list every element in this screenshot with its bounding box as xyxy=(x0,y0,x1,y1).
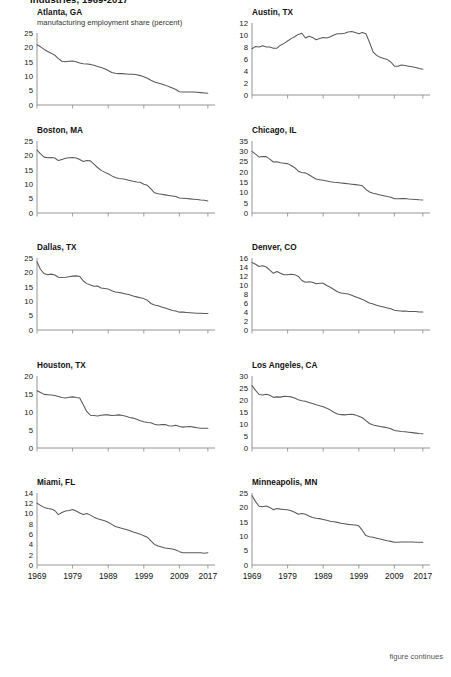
x-tick-label: 2017 xyxy=(414,571,433,581)
series-line xyxy=(252,263,423,313)
chart-title: Los Angeles, CA xyxy=(252,361,431,370)
chart-title: Miami, FL xyxy=(37,478,215,487)
y-tick-label: 10 xyxy=(24,509,33,518)
chart-title: Minneapolis, MN xyxy=(252,478,431,487)
panel-grid: Atlanta, GAmanufacturing employment shar… xyxy=(0,8,451,618)
y-tick-label: 12 xyxy=(239,272,248,281)
figure-title: industries, 1969-2017 xyxy=(30,0,128,5)
y-tick-label: 6 xyxy=(244,299,248,308)
y-tick-label: 8 xyxy=(244,43,248,52)
y-tick-label: 10 xyxy=(239,419,248,428)
series-line xyxy=(252,151,423,200)
y-tick-label: 0 xyxy=(29,326,34,335)
y-tick-label: 15 xyxy=(24,58,33,67)
y-tick-label: 30 xyxy=(239,147,248,156)
x-tick-label: 2009 xyxy=(170,571,189,581)
y-tick-label: 0 xyxy=(29,101,34,110)
chart-panel: Dallas, TX0510152025 xyxy=(0,243,215,361)
y-tick-label: 15 xyxy=(24,283,33,292)
y-tick-label: 20 xyxy=(239,503,248,512)
x-tick-label: 1969 xyxy=(28,571,47,581)
chart-panel: Chicago, IL05101520253035 xyxy=(215,126,431,244)
chart-title: Dallas, TX xyxy=(37,243,215,252)
series-line xyxy=(252,385,423,433)
chart-subtitle: manufacturing employment share (percent) xyxy=(37,18,215,27)
y-tick-label: 0 xyxy=(29,208,34,217)
chart-panel: Los Angeles, CA051015202530 xyxy=(215,361,431,479)
y-tick-label: 10 xyxy=(239,281,248,290)
chart-plot-area: 02468101214196919791989199920092017 xyxy=(0,490,215,596)
chart-plot-area: 0246810121416 xyxy=(215,255,430,347)
y-tick-label: 25 xyxy=(24,136,33,145)
chart-title: Austin, TX xyxy=(252,8,431,17)
series-line xyxy=(37,150,208,201)
y-tick-label: 5 xyxy=(244,198,249,207)
y-tick-label: 10 xyxy=(239,188,248,197)
series-line xyxy=(37,503,208,553)
y-tick-label: 2 xyxy=(244,317,248,326)
y-tick-label: 5 xyxy=(244,431,249,440)
y-tick-label: 35 xyxy=(239,136,248,145)
y-tick-label: 2 xyxy=(29,551,33,560)
y-tick-label: 5 xyxy=(244,546,249,555)
y-tick-label: 20 xyxy=(24,268,33,277)
x-tick-label: 1979 xyxy=(278,571,297,581)
chart-plot-area: 05101520253035 xyxy=(215,138,430,230)
y-tick-label: 10 xyxy=(239,31,248,40)
chart-panel: Atlanta, GAmanufacturing employment shar… xyxy=(0,8,215,126)
y-tick-label: 4 xyxy=(244,67,249,76)
y-tick-label: 14 xyxy=(239,263,248,272)
y-tick-label: 8 xyxy=(244,290,248,299)
y-tick-label: 8 xyxy=(29,520,33,529)
y-tick-label: 20 xyxy=(24,371,33,380)
figure-page: industries, 1969-2017 Atlanta, GAmanufac… xyxy=(0,0,451,677)
y-tick-label: 15 xyxy=(239,407,248,416)
chart-plot-area: 051015202530 xyxy=(215,373,430,465)
chart-plot-area: 024681012 xyxy=(215,20,430,112)
y-tick-label: 0 xyxy=(29,443,34,452)
x-tick-label: 1999 xyxy=(134,571,153,581)
y-tick-label: 25 xyxy=(24,29,33,38)
chart-panel: Austin, TX024681012 xyxy=(215,8,431,126)
y-tick-label: 12 xyxy=(24,499,33,508)
y-tick-label: 15 xyxy=(239,518,248,527)
y-tick-label: 25 xyxy=(239,157,248,166)
series-line xyxy=(37,45,208,93)
x-tick-label: 1989 xyxy=(99,571,118,581)
y-tick-label: 20 xyxy=(239,167,248,176)
y-tick-label: 25 xyxy=(24,254,33,263)
y-tick-label: 4 xyxy=(29,540,34,549)
y-tick-label: 10 xyxy=(239,532,248,541)
x-tick-label: 1979 xyxy=(63,571,82,581)
y-tick-label: 10 xyxy=(24,72,33,81)
y-tick-label: 0 xyxy=(244,326,249,335)
y-tick-label: 5 xyxy=(29,86,34,95)
y-tick-label: 15 xyxy=(24,165,33,174)
y-tick-label: 5 xyxy=(29,194,34,203)
y-tick-label: 4 xyxy=(244,308,249,317)
series-line xyxy=(252,496,423,543)
chart-panel: Denver, CO0246810121416 xyxy=(215,243,431,361)
x-tick-label: 1999 xyxy=(349,571,368,581)
y-tick-label: 15 xyxy=(239,177,248,186)
chart-title: Denver, CO xyxy=(252,243,431,252)
chart-panel: Boston, MA0510152025 xyxy=(0,126,215,244)
y-tick-label: 20 xyxy=(24,151,33,160)
y-tick-label: 10 xyxy=(24,180,33,189)
series-line xyxy=(37,262,208,314)
y-tick-label: 14 xyxy=(24,489,33,498)
series-line xyxy=(252,31,423,69)
chart-plot-area: 0510152025196919791989199920092017 xyxy=(215,490,430,596)
y-tick-label: 5 xyxy=(29,425,34,434)
x-tick-label: 1969 xyxy=(243,571,262,581)
y-tick-label: 0 xyxy=(244,443,249,452)
y-tick-label: 6 xyxy=(244,55,248,64)
y-tick-label: 0 xyxy=(29,561,34,570)
y-tick-label: 10 xyxy=(24,407,33,416)
y-tick-label: 20 xyxy=(24,43,33,52)
chart-title: Atlanta, GA xyxy=(37,8,215,17)
figure-footer-note: figure continues xyxy=(389,652,443,661)
chart-panel: Minneapolis, MN0510152025196919791989199… xyxy=(215,478,431,618)
y-tick-label: 25 xyxy=(239,489,248,498)
chart-panel: Houston, TX05101520 xyxy=(0,361,215,479)
